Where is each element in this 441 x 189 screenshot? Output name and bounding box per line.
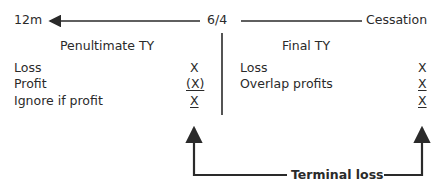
- right-row-value: X: [418, 78, 427, 91]
- left-row-value: X: [190, 95, 199, 108]
- right-row-value: X: [418, 62, 427, 75]
- right-row-label: Loss: [240, 62, 267, 75]
- left-column-title: Penultimate TY: [60, 40, 154, 53]
- right-column-title: Final TY: [282, 40, 330, 53]
- left-row-value: (X): [186, 78, 204, 91]
- left-row-label: Ignore if profit: [14, 95, 103, 108]
- left-row-label: Profit: [14, 78, 47, 91]
- terminal-loss-label: Terminal loss: [291, 169, 384, 182]
- terminal-loss-left-arrow: [194, 128, 287, 175]
- timeline-end-label: Cessation: [366, 14, 427, 27]
- timeline-center-label: 6/4: [207, 14, 227, 27]
- right-row-label: Overlap profits: [240, 78, 333, 91]
- left-row-value: X: [190, 62, 199, 75]
- timeline-start-label: 12m: [14, 14, 42, 27]
- terminal-loss-right-arrow: [384, 128, 422, 175]
- left-row-label: Loss: [14, 62, 41, 75]
- right-row-value: X: [418, 95, 427, 108]
